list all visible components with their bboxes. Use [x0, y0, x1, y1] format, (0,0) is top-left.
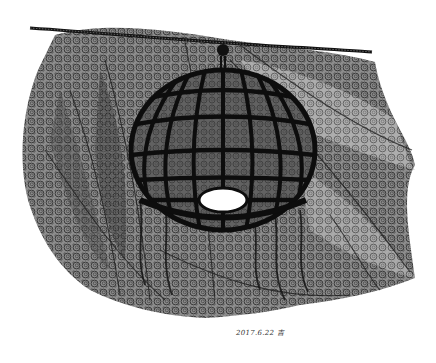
lamp-illustration — [0, 0, 436, 363]
artwork-canvas: 2017.6.22 吉 — [0, 0, 436, 363]
signature-mark: 吉 — [277, 329, 284, 337]
artist-signature: 2017.6.22 吉 — [236, 327, 284, 337]
lamp-opening — [199, 188, 247, 212]
signature-date: 2017.6.22 — [236, 329, 274, 337]
